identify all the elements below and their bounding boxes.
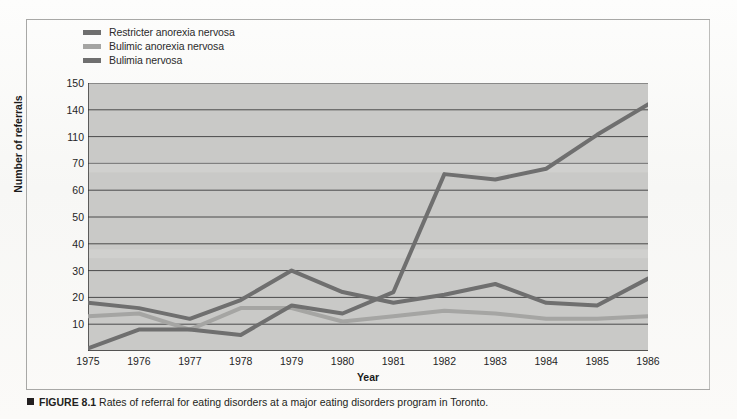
x-tick-label: 1979 <box>280 355 303 367</box>
x-tick-label: 1981 <box>382 355 405 367</box>
figure-number: FIGURE 8.1 <box>39 396 96 408</box>
x-tick-label: 1986 <box>636 355 659 367</box>
x-tick-label: 1978 <box>229 355 252 367</box>
yaxis-title-wrapper: Number of referrals <box>0 0 1 1</box>
y-tick-label: 50 <box>50 211 84 223</box>
chart-legend: Restricter anorexia nervosa Bulimic anor… <box>83 26 313 68</box>
y-tick-label: 20 <box>50 291 84 303</box>
xaxis-tick-labels: 1975197619771978197919801981198219831984… <box>88 355 648 371</box>
legend-item-bulimia-nervosa: Bulimia nervosa <box>83 54 313 66</box>
x-tick-label: 1982 <box>433 355 456 367</box>
series-line-0 <box>88 271 648 319</box>
y-tick-label: 150 <box>50 77 84 89</box>
y-tick-label: 10 <box>50 318 84 330</box>
xaxis-title: Year <box>88 371 648 383</box>
scan-band <box>88 249 648 258</box>
y-tick-label: 30 <box>50 265 84 277</box>
scan-band <box>88 163 648 172</box>
legend-item-bulimic-anorexia-nervosa: Bulimic anorexia nervosa <box>83 40 313 52</box>
y-tick-label: 110 <box>50 131 84 143</box>
yaxis-tick-labels: 10203040506070110140150 <box>48 83 84 351</box>
x-tick-label: 1977 <box>178 355 201 367</box>
legend-item-label: Bulimia nervosa <box>109 55 182 66</box>
square-bullet-icon <box>27 398 34 405</box>
y-tick-label: 60 <box>50 184 84 196</box>
y-tick-label: 40 <box>50 238 84 250</box>
series-line-1 <box>88 308 648 329</box>
legend-swatch-icon <box>83 30 101 35</box>
legend-swatch-icon <box>83 44 101 49</box>
figure-caption: FIGURE 8.1 Rates of referral for eating … <box>27 396 717 408</box>
x-tick-label: 1984 <box>534 355 557 367</box>
legend-item-label: Restricter anorexia nervosa <box>109 27 235 38</box>
x-tick-label: 1980 <box>331 355 354 367</box>
legend-item-label: Bulimic anorexia nervosa <box>109 41 224 52</box>
x-tick-label: 1985 <box>585 355 608 367</box>
chart-svg <box>88 83 648 351</box>
legend-swatch-icon <box>83 58 101 63</box>
series-line-2 <box>88 104 648 348</box>
yaxis-title: Number of referrals <box>12 64 24 224</box>
y-tick-label: 70 <box>50 157 84 169</box>
legend-item-restricter-anorexia-nervosa: Restricter anorexia nervosa <box>83 26 313 38</box>
y-tick-label: 140 <box>50 104 84 116</box>
x-tick-label: 1976 <box>127 355 150 367</box>
figure-caption-text: Rates of referral for eating disorders a… <box>99 396 488 408</box>
x-tick-label: 1975 <box>76 355 99 367</box>
x-tick-label: 1983 <box>484 355 507 367</box>
plot-area <box>88 83 648 351</box>
